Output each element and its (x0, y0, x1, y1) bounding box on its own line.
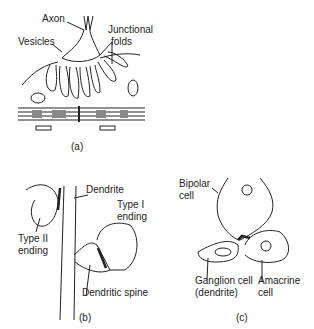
label-ganglion-2: (dendrite) (195, 287, 238, 298)
label-bipolar-1: Bipolar (179, 178, 210, 189)
label-ganglion-1: Ganglion cell (195, 275, 253, 286)
label-type2-1: Type II (18, 233, 48, 244)
label-dendrite: Dendrite (86, 184, 124, 195)
label-bipolar-2: cell (179, 190, 194, 201)
caption-a: (a) (71, 141, 83, 152)
label-type1-1: Type I (117, 199, 144, 210)
panel-c-drawing (198, 178, 289, 282)
label-vesicles: Vesicles (18, 36, 55, 47)
label-junctional-folds-2: folds (111, 36, 132, 47)
label-dendritic-spine: Dendritic spine (82, 287, 148, 298)
caption-b: (b) (79, 312, 91, 323)
caption-c: (c) (236, 312, 248, 323)
label-amacrine-1: Amacrine (258, 275, 300, 286)
label-axon: Axon (42, 13, 65, 24)
label-amacrine-2: cell (258, 287, 273, 298)
label-type2-2: ending (18, 245, 48, 256)
label-type1-2: ending (117, 211, 147, 222)
label-junctional-folds-1: Junctional (108, 24, 153, 35)
